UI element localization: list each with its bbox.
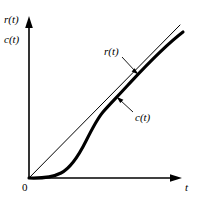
origin-tick-label: 0 bbox=[22, 182, 28, 193]
annotation-leader-c bbox=[117, 97, 134, 112]
curve-label-r: r(t) bbox=[104, 46, 119, 57]
curve-label-c: c(t) bbox=[135, 112, 150, 123]
y-axis-label-primary: r(t) bbox=[4, 14, 19, 25]
x-axis-label: t bbox=[185, 182, 188, 193]
y-axis bbox=[25, 16, 33, 178]
figure-container: r(t) c(t) t 0 r(t) c(t) bbox=[0, 0, 198, 206]
plot-canvas bbox=[0, 0, 198, 206]
y-axis-label-secondary: c(t) bbox=[4, 34, 19, 45]
annotation-leader-r bbox=[122, 57, 139, 75]
